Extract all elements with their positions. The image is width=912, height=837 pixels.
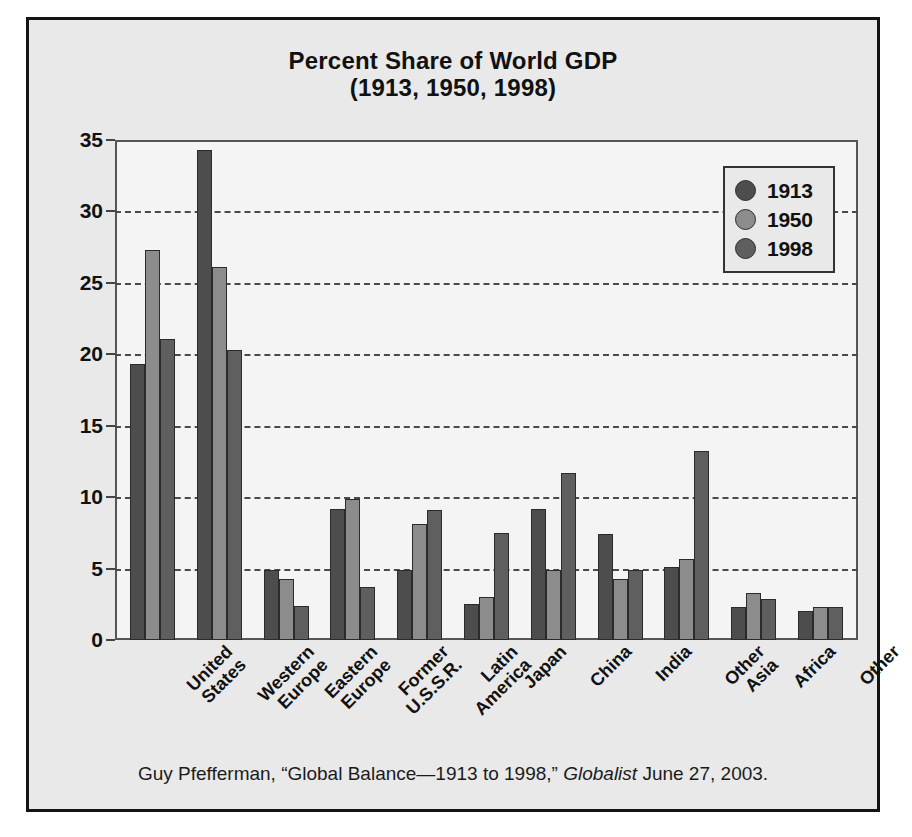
y-axis-tick-mark [106, 496, 115, 498]
x-axis-label: OtherAsia [721, 642, 782, 703]
bar [145, 250, 160, 640]
chart-figure: Percent Share of World GDP (1913, 1950, … [26, 17, 880, 812]
bar [294, 606, 309, 640]
bar [160, 339, 175, 640]
bar [628, 570, 643, 640]
bar-group [598, 140, 643, 640]
bar [798, 611, 813, 640]
caption-source-name: Globalist [563, 763, 637, 784]
caption-text-pre: Guy Pfefferman, “Global Balance—1913 to … [138, 763, 563, 784]
x-axis-label: China [587, 642, 636, 691]
bar [130, 364, 145, 640]
y-axis-tick-mark [106, 139, 115, 141]
bar [464, 604, 479, 640]
bar [479, 597, 494, 640]
bar-group [264, 140, 309, 640]
bar [197, 150, 212, 640]
bar [613, 579, 628, 640]
bar [330, 509, 345, 640]
y-axis-tick-mark [106, 353, 115, 355]
x-axis-label: FormerU.S.S.R. [390, 642, 466, 718]
x-axis-label-line1: China [586, 641, 636, 691]
bar [397, 570, 412, 640]
x-axis-label: EasternEurope [321, 642, 394, 715]
y-axis-tick-label: 20 [80, 342, 103, 366]
y-axis-tick-mark [106, 639, 115, 641]
bar-group [130, 140, 175, 640]
x-axis-label: Africa [790, 642, 839, 691]
y-axis-tick-mark [106, 568, 115, 570]
x-axis-label-line1: Africa [789, 641, 839, 691]
legend-entry: 1950 [735, 205, 823, 234]
y-axis-tick-label: 5 [91, 557, 103, 581]
bar [264, 570, 279, 640]
bar [598, 534, 613, 640]
chart-title-main: Percent Share of World GDP [29, 48, 877, 75]
bar [813, 607, 828, 640]
bar [746, 593, 761, 640]
bar-group [531, 140, 576, 640]
y-axis-tick-label: 35 [80, 128, 103, 152]
x-axis-label: WesternEurope [255, 642, 332, 719]
chart-title-subtitle: (1913, 1950, 1998) [29, 75, 877, 102]
y-axis-tick-label: 25 [80, 271, 103, 295]
bar-group [464, 140, 509, 640]
chart-title: Percent Share of World GDP (1913, 1950, … [29, 48, 877, 102]
bar [731, 607, 746, 640]
legend-label: 1998 [767, 237, 813, 261]
y-axis-tick-label: 10 [80, 485, 103, 509]
y-axis-tick-label: 30 [80, 199, 103, 223]
legend-entry: 1998 [735, 234, 823, 263]
x-axis-label: UnitedStates [183, 642, 249, 708]
bar [694, 451, 709, 640]
y-axis-tick-label: 0 [91, 628, 103, 652]
bar [212, 267, 227, 640]
x-axis-label-line1: Other [856, 641, 904, 689]
source-caption: Guy Pfefferman, “Global Balance—1913 to … [29, 763, 877, 785]
x-axis-labels: UnitedStatesWesternEuropeEasternEuropeFo… [115, 642, 858, 752]
legend-swatch-circle-icon [735, 209, 756, 230]
bar [679, 559, 694, 640]
bar [427, 510, 442, 640]
y-axis-tick-mark [106, 210, 115, 212]
bar [664, 567, 679, 640]
bar [360, 587, 375, 640]
y-axis-tick-mark [106, 282, 115, 284]
bar [531, 509, 546, 640]
x-axis-label: India [652, 642, 695, 685]
bar [227, 350, 242, 640]
bar-group [397, 140, 442, 640]
bar [279, 579, 294, 640]
legend-swatch-circle-icon [735, 238, 756, 259]
bar [345, 499, 360, 640]
bar-group [664, 140, 709, 640]
x-axis-label: Other [856, 642, 903, 689]
bar [546, 570, 561, 640]
bar [828, 607, 843, 640]
bar [561, 473, 576, 640]
bar [494, 533, 509, 640]
bar [761, 599, 776, 640]
legend-label: 1950 [767, 208, 813, 232]
y-axis-tick-mark [106, 425, 115, 427]
y-axis-tick-label: 15 [80, 414, 103, 438]
x-axis-label-line1: India [651, 641, 695, 685]
bar [412, 524, 427, 640]
chart-legend: 191319501998 [723, 166, 835, 273]
bar-group [330, 140, 375, 640]
legend-label: 1913 [767, 179, 813, 203]
legend-entry: 1913 [735, 176, 823, 205]
legend-swatch-circle-icon [735, 180, 756, 201]
bar-group [197, 140, 242, 640]
caption-text-post: June 27, 2003. [637, 763, 768, 784]
